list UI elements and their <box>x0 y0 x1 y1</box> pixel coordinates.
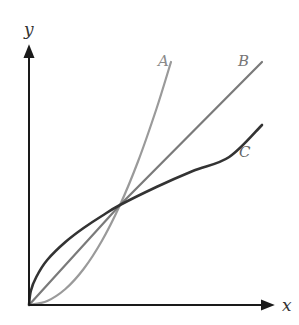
curve-c <box>29 125 262 305</box>
curve-b-label: B <box>237 52 249 70</box>
x-axis-label: x <box>282 295 292 315</box>
curve-a-label: A <box>156 52 169 70</box>
function-comparison-diagram: x y A B C <box>0 0 299 325</box>
y-axis-label: y <box>23 19 34 39</box>
curve-a <box>29 62 171 305</box>
curve-b <box>29 62 262 305</box>
curves-group <box>29 62 262 305</box>
curve-c-label: C <box>239 143 251 161</box>
